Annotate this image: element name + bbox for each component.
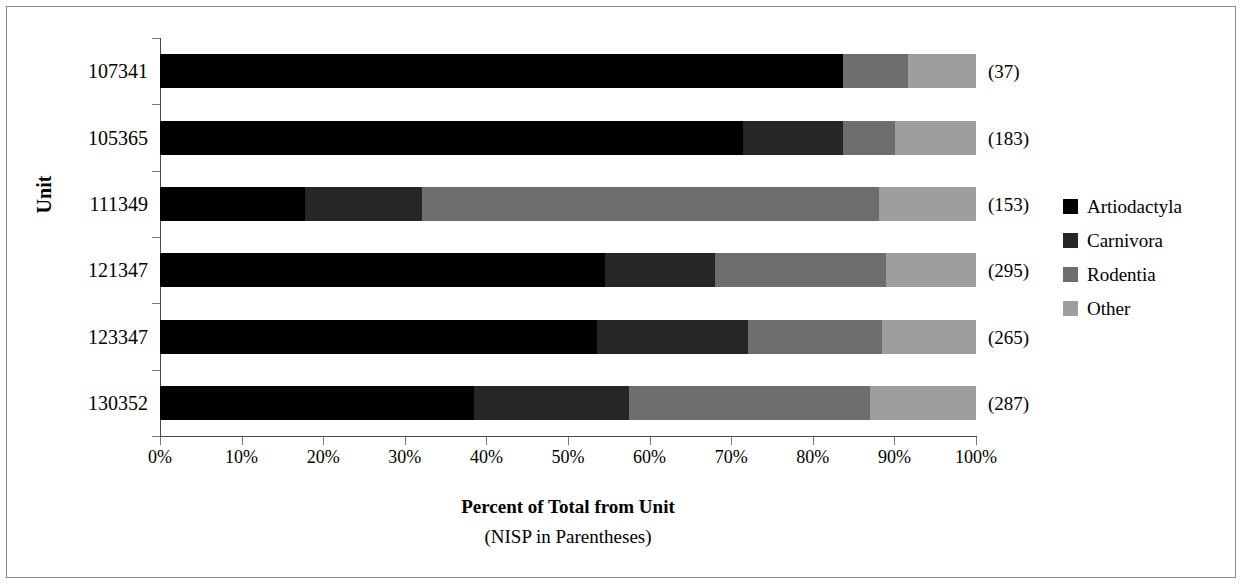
value-tick: [486, 437, 487, 445]
legend-item-rodentia[interactable]: Rodentia: [1063, 257, 1182, 291]
bar-stack: [160, 187, 976, 221]
nisp-annotation: (265): [988, 328, 1029, 347]
bar-segment-artiodactyla: [160, 187, 305, 221]
value-tick-label: 10%: [225, 448, 258, 466]
nisp-annotation: (153): [988, 195, 1029, 214]
bar-segment-carnivora: [305, 187, 422, 221]
bar-row: [160, 121, 976, 155]
bar-segment-artiodactyla: [160, 320, 597, 354]
value-tick: [813, 437, 814, 445]
bar-row: [160, 386, 976, 420]
category-label: 107341: [88, 61, 148, 81]
bar-segment-artiodactyla: [160, 54, 843, 88]
bar-row: [160, 54, 976, 88]
nisp-annotation: (295): [988, 261, 1029, 280]
category-label: 121347: [88, 260, 148, 280]
plot-area: [160, 38, 976, 436]
value-tick-label: 0%: [148, 448, 172, 466]
legend-label: Carnivora: [1087, 231, 1163, 250]
value-tick-label: 30%: [388, 448, 421, 466]
bar-stack: [160, 54, 976, 88]
legend: ArtiodactylaCarnivoraRodentiaOther: [1063, 189, 1182, 325]
bar-segment-other: [895, 121, 976, 155]
value-tick-label: 80%: [796, 448, 829, 466]
bar-segment-other: [870, 386, 976, 420]
legend-swatch-icon: [1063, 199, 1078, 214]
legend-item-carnivora[interactable]: Carnivora: [1063, 223, 1182, 257]
x-axis-subtitle: (NISP in Parentheses): [160, 526, 976, 548]
value-tick: [160, 437, 161, 445]
category-tick: [152, 104, 160, 105]
bar-segment-other: [886, 253, 976, 287]
legend-item-other[interactable]: Other: [1063, 291, 1182, 325]
legend-swatch-icon: [1063, 267, 1078, 282]
bar-segment-carnivora: [743, 121, 843, 155]
value-tick-label: 70%: [715, 448, 748, 466]
bar-stack: [160, 386, 976, 420]
bar-segment-carnivora: [605, 253, 715, 287]
legend-label: Rodentia: [1087, 265, 1156, 284]
value-tick: [731, 437, 732, 445]
bar-segment-rodentia: [422, 187, 879, 221]
bar-segment-rodentia: [629, 386, 870, 420]
value-tick: [568, 437, 569, 445]
value-tick: [894, 437, 895, 445]
bar-segment-rodentia: [843, 54, 908, 88]
nisp-annotation: (183): [988, 129, 1029, 148]
category-label: 130352: [88, 393, 148, 413]
chart-page: 107341105365111349121347123347130352 (37…: [0, 0, 1244, 587]
y-axis-title: Unit: [33, 176, 56, 214]
bar-segment-artiodactyla: [160, 121, 743, 155]
legend-label: Other: [1087, 299, 1130, 318]
nisp-annotation: (287): [988, 394, 1029, 413]
legend-label: Artiodactyla: [1087, 197, 1182, 216]
bar-segment-other: [908, 54, 976, 88]
value-tick-label: 100%: [955, 448, 997, 466]
value-tick: [976, 437, 977, 445]
nisp-annotation: (37): [988, 62, 1020, 81]
category-tick: [152, 38, 160, 39]
value-tick: [242, 437, 243, 445]
value-tick: [405, 437, 406, 445]
legend-item-artiodactyla[interactable]: Artiodactyla: [1063, 189, 1182, 223]
bar-segment-rodentia: [748, 320, 883, 354]
category-tick: [152, 237, 160, 238]
category-label: 105365: [88, 128, 148, 148]
bar-row: [160, 320, 976, 354]
value-tick: [650, 437, 651, 445]
category-tick: [152, 171, 160, 172]
category-label: 111349: [89, 194, 148, 214]
bar-stack: [160, 253, 976, 287]
category-tick: [152, 303, 160, 304]
bar-segment-rodentia: [715, 253, 886, 287]
bar-segment-other: [882, 320, 976, 354]
bar-row: [160, 187, 976, 221]
value-tick: [323, 437, 324, 445]
bar-row: [160, 253, 976, 287]
value-tick-label: 60%: [633, 448, 666, 466]
value-tick-label: 40%: [470, 448, 503, 466]
bar-segment-artiodactyla: [160, 386, 474, 420]
value-tick-label: 90%: [878, 448, 911, 466]
bar-segment-rodentia: [843, 121, 895, 155]
bar-segment-carnivora: [597, 320, 748, 354]
category-label: 123347: [88, 327, 148, 347]
bar-segment-carnivora: [474, 386, 629, 420]
category-tick: [152, 370, 160, 371]
category-tick: [152, 436, 160, 437]
x-axis-title: Percent of Total from Unit: [160, 496, 976, 518]
bar-segment-other: [879, 187, 976, 221]
bar-segment-artiodactyla: [160, 253, 605, 287]
bar-stack: [160, 121, 976, 155]
value-tick-label: 20%: [307, 448, 340, 466]
legend-swatch-icon: [1063, 233, 1078, 248]
value-tick-label: 50%: [552, 448, 585, 466]
bar-stack: [160, 320, 976, 354]
legend-swatch-icon: [1063, 301, 1078, 316]
